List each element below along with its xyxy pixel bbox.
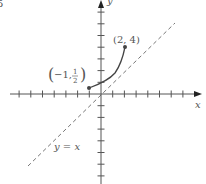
start-point-label: ( −1, 1 2 ) — [48, 65, 86, 85]
line-label: y = x — [53, 141, 80, 152]
frac-num: 1 — [73, 68, 77, 76]
x-axis-label: x — [195, 99, 201, 110]
graph-svg: 5 (2, 4) ( −1, 1 2 ) x y y = x — [0, 0, 206, 184]
corner-label: 5 — [0, 0, 3, 9]
start-point-prefix: −1, — [54, 69, 72, 80]
end-point-label: (2, 4) — [113, 34, 140, 45]
start-point — [87, 86, 91, 90]
svg-text:): ) — [80, 65, 86, 84]
exponential-curve — [89, 47, 125, 88]
end-point — [123, 45, 127, 49]
frac-den: 2 — [73, 77, 77, 85]
x-axis-arrow-icon — [194, 91, 202, 97]
graph-figure: 5 (2, 4) ( −1, 1 2 ) x y y = x — [0, 0, 206, 184]
y-axis-arrow-icon — [98, 0, 104, 8]
y-axis-label: y — [106, 0, 113, 6]
